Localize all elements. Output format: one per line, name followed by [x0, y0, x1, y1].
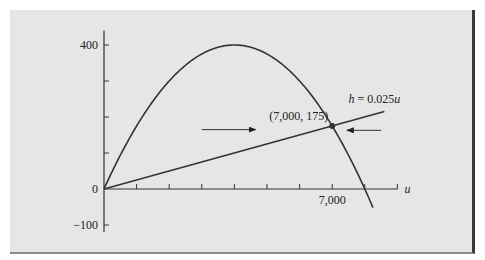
y-tick-label: 400 [80, 38, 98, 52]
intersection-point [329, 123, 335, 129]
chart: 7,000 4000−100 u (7,000, 175) h = 0.025u [0, 0, 485, 260]
line-label-eq: = 0.025 [354, 92, 394, 106]
line-label-u: u [394, 92, 400, 106]
intersection-label: (7,000, 175) [269, 109, 328, 123]
line-h-0025u [104, 112, 384, 189]
x-tick-label: 7,000 [319, 193, 346, 207]
y-tick-label: 0 [92, 182, 98, 196]
x-axis-label: u [404, 182, 410, 196]
line-equation-label: h = 0.025u [348, 92, 400, 106]
y-tick-label: −100 [73, 218, 98, 232]
